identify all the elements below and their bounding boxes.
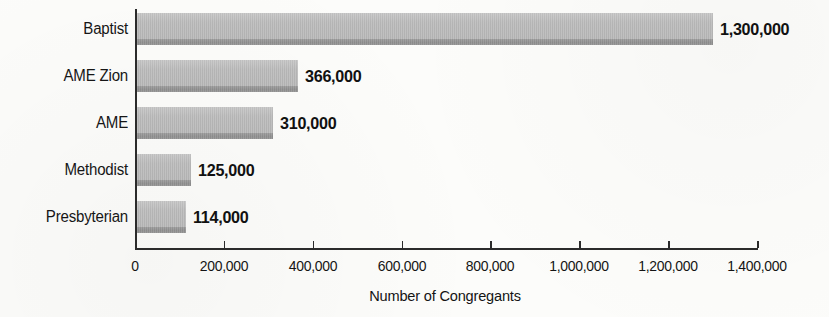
y-axis-label-ame-zion: AME Zion [0, 68, 128, 84]
tick-mark [757, 241, 759, 248]
category-label-text: AME [11, 115, 128, 131]
x-tick-label: 1,000,000 [550, 258, 610, 273]
tick-mark [224, 241, 226, 248]
x-tick-label: 1,400,000 [727, 258, 787, 273]
tick-mark [668, 241, 670, 248]
tick-mark [402, 241, 404, 248]
bar-stripe [135, 86, 298, 92]
bar-stripe [135, 133, 273, 139]
x-axis-title: Number of Congregants [369, 288, 521, 304]
bar-methodist [135, 154, 191, 186]
bar-stripe [135, 180, 191, 186]
y-axis-label-methodist: Methodist [0, 162, 128, 178]
y-axis-label-ame: AME [0, 115, 128, 131]
category-label-text: AME Zion [11, 68, 128, 84]
y-axis-label-presbyterian: Presbyterian [0, 209, 128, 225]
x-tick-label: 0 [131, 258, 138, 273]
bar-stripe [135, 227, 186, 233]
y-axis-line [135, 9, 137, 248]
value-label-methodist: 125,000 [198, 162, 254, 179]
y-axis-label-baptist: Baptist [0, 21, 128, 37]
value-label-baptist: 1,300,000 [720, 21, 789, 38]
bar-presbyterian [135, 201, 186, 233]
x-tick-label: 200,000 [200, 258, 248, 273]
tick-mark [490, 241, 492, 248]
bar-ame-zion [135, 60, 298, 92]
category-label-text: Baptist [11, 21, 128, 37]
bar-stripe [135, 39, 713, 45]
x-tick-label: 1,200,000 [638, 258, 698, 273]
bar-chart: BaptistAME ZionAMEMethodistPresbyterian … [0, 0, 829, 317]
x-tick-label: 400,000 [288, 258, 336, 273]
bar-ame [135, 107, 273, 139]
bar-baptist [135, 13, 713, 45]
x-tick-label: 800,000 [466, 258, 514, 273]
value-label-ame-zion: 366,000 [305, 68, 361, 85]
value-label-ame: 310,000 [280, 115, 336, 132]
x-tick-label: 600,000 [377, 258, 425, 273]
tick-mark [579, 241, 581, 248]
tick-mark [313, 241, 315, 248]
value-label-presbyterian: 114,000 [193, 209, 249, 226]
category-label-text: Methodist [11, 162, 128, 178]
category-label-text: Presbyterian [11, 209, 128, 225]
x-axis-line [135, 248, 758, 250]
